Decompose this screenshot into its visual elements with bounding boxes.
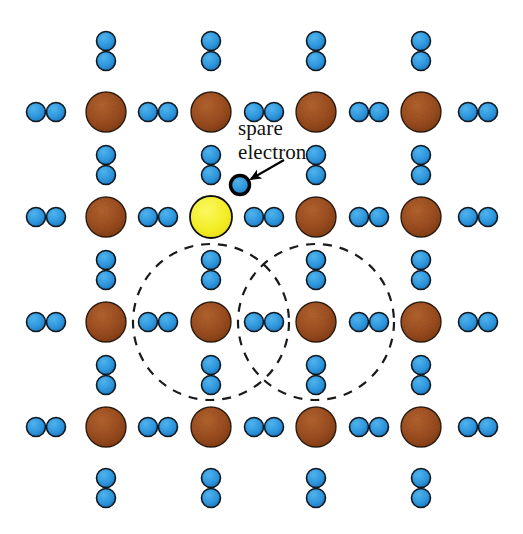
electron-dot	[412, 489, 431, 508]
electron-dot	[159, 208, 178, 227]
electron-dot	[139, 103, 158, 122]
electron-dot	[459, 208, 478, 227]
electron-dot	[307, 271, 326, 290]
host-atom	[191, 407, 231, 447]
electron-dot	[97, 52, 116, 71]
electron-dot	[412, 251, 431, 270]
host-atom	[401, 302, 441, 342]
host-atom	[191, 92, 231, 132]
electron-dot	[370, 418, 389, 437]
electron-dot	[412, 271, 431, 290]
spare-electron-annotation: spare electron	[231, 116, 307, 195]
electron-dot	[370, 208, 389, 227]
electron-dot	[202, 271, 221, 290]
electron-dot	[202, 356, 221, 375]
host-atom	[86, 407, 126, 447]
lattice-diagram-canvas: spare electron	[0, 0, 523, 534]
electron-dot	[307, 376, 326, 395]
host-atom	[86, 302, 126, 342]
electron-dot	[479, 208, 498, 227]
spare-electron-label-line-1: spare	[238, 116, 283, 140]
electron-dot	[245, 208, 264, 227]
electron-dot	[412, 469, 431, 488]
electron-dot	[202, 166, 221, 185]
electron-dot	[202, 489, 221, 508]
host-atom	[86, 92, 126, 132]
electron-dot	[307, 356, 326, 375]
electron-dot	[307, 32, 326, 51]
spare-electron-icon	[231, 176, 250, 195]
dopant-atom	[190, 196, 232, 238]
electron-dot	[47, 208, 66, 227]
electron-dot	[412, 52, 431, 71]
electron-dot	[97, 251, 116, 270]
electron-dot	[245, 418, 264, 437]
spare-electron-label-line-2: electron	[238, 140, 307, 164]
electron-dot	[350, 313, 369, 332]
electron-dot	[202, 376, 221, 395]
host-atom	[401, 92, 441, 132]
electron-dot	[97, 32, 116, 51]
electron-dot	[412, 356, 431, 375]
host-atom	[401, 197, 441, 237]
electron-dot	[97, 271, 116, 290]
electron-dot	[245, 313, 264, 332]
electron-dot	[159, 418, 178, 437]
electron-dot	[97, 146, 116, 165]
electron-dot	[370, 103, 389, 122]
electron-dot	[265, 313, 284, 332]
electron-dot	[307, 489, 326, 508]
electron-dot	[97, 356, 116, 375]
electron-dot	[202, 32, 221, 51]
electron-dot	[97, 469, 116, 488]
host-atom	[296, 302, 336, 342]
electron-dot	[139, 313, 158, 332]
electron-dot	[139, 418, 158, 437]
host-atom	[401, 407, 441, 447]
electron-dot	[459, 313, 478, 332]
electron-dot	[97, 166, 116, 185]
electron-dot	[370, 313, 389, 332]
electron-dot	[412, 146, 431, 165]
host-atom	[191, 302, 231, 342]
electron-dot	[97, 489, 116, 508]
electron-dot	[479, 103, 498, 122]
electron-dot	[139, 208, 158, 227]
electron-dot	[459, 418, 478, 437]
electron-dot	[412, 166, 431, 185]
dopant-atom-group	[190, 196, 232, 238]
electron-dot	[350, 208, 369, 227]
electron-dot	[479, 313, 498, 332]
electron-dot	[47, 418, 66, 437]
electron-dot	[47, 313, 66, 332]
electron-dot	[159, 313, 178, 332]
electron-dot	[479, 418, 498, 437]
electron-dot	[350, 418, 369, 437]
electron-dot	[97, 376, 116, 395]
host-atom	[296, 92, 336, 132]
electron-dot	[202, 251, 221, 270]
host-atom	[296, 407, 336, 447]
lattice-figure: spare electron	[0, 0, 523, 534]
electron-dot	[459, 103, 478, 122]
electron-dot	[307, 52, 326, 71]
electron-dot	[350, 103, 369, 122]
electron-dot	[202, 469, 221, 488]
electron-dot	[412, 32, 431, 51]
electron-dot	[27, 418, 46, 437]
electron-dot	[307, 251, 326, 270]
electron-dot	[307, 146, 326, 165]
electron-dot	[27, 313, 46, 332]
electron-dot	[47, 103, 66, 122]
electron-dot	[202, 52, 221, 71]
electron-dot	[307, 166, 326, 185]
electron-dot	[265, 208, 284, 227]
electron-dot	[27, 103, 46, 122]
electron-dot	[202, 146, 221, 165]
electron-dot	[27, 208, 46, 227]
electron-dot	[412, 376, 431, 395]
host-atom	[296, 197, 336, 237]
electron-dot	[159, 103, 178, 122]
host-atom	[86, 197, 126, 237]
electron-dot	[265, 418, 284, 437]
